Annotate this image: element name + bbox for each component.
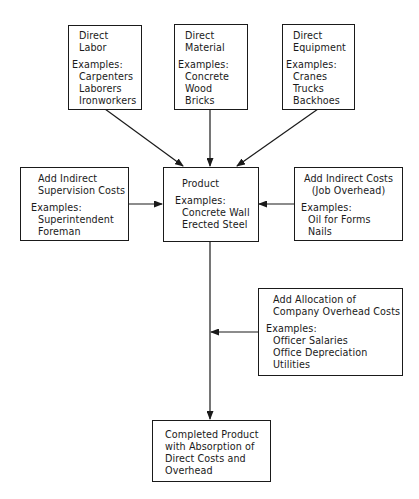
- box-title: Add Indirect Costs: [295, 173, 402, 185]
- direct-equipment-box: Direct Equipment Examples: Cranes Trucks…: [282, 24, 355, 110]
- examples-label: Examples:: [164, 195, 258, 207]
- example-item: Erected Steel: [164, 219, 258, 231]
- box-title: Equipment: [283, 42, 354, 54]
- box-title: Company Overhead Costs: [259, 306, 402, 318]
- box-title: Product: [164, 178, 258, 190]
- box-title: Direct: [283, 30, 354, 42]
- box-title: Add Indirect: [21, 173, 128, 185]
- example-item: Nails: [295, 226, 402, 238]
- box-title: Overhead: [153, 465, 270, 477]
- example-item: Concrete: [175, 71, 247, 83]
- indirect-supervision-box: Add Indirect Supervision Costs Examples:…: [20, 167, 129, 241]
- box-title: Direct: [69, 30, 141, 42]
- example-item: Cranes: [283, 71, 354, 83]
- completed-product-box: Completed Product with Absorption of Dir…: [152, 420, 271, 482]
- example-item: Officer Salaries: [259, 335, 402, 347]
- example-item: Backhoes: [283, 95, 354, 107]
- examples-label: Examples:: [21, 202, 128, 214]
- examples-label: Examples:: [69, 59, 141, 71]
- example-item: Oil for Forms: [295, 214, 402, 226]
- example-item: Wood: [175, 83, 247, 95]
- examples-label: Examples:: [283, 59, 354, 71]
- box-title: Material: [175, 42, 247, 54]
- example-item: Superintendent: [21, 214, 128, 226]
- example-item: Bricks: [175, 95, 247, 107]
- box-title: Add Allocation of: [259, 294, 402, 306]
- example-item: Office Depreciation: [259, 347, 402, 359]
- example-item: Laborers: [69, 83, 141, 95]
- box-title: Direct: [175, 30, 247, 42]
- indirect-job-overhead-box: Add Indirect Costs (Job Overhead) Exampl…: [294, 167, 403, 241]
- example-item: Foreman: [21, 226, 128, 238]
- examples-label: Examples:: [175, 59, 247, 71]
- direct-labor-box: Direct Labor Examples: Carpenters Labore…: [68, 25, 142, 110]
- examples-label: Examples:: [259, 323, 402, 335]
- arrow-equipment-to-product: [237, 109, 318, 166]
- example-item: Utilities: [259, 359, 402, 371]
- example-item: Ironworkers: [69, 95, 141, 107]
- examples-label: Examples:: [295, 202, 402, 214]
- example-item: Concrete Wall: [164, 207, 258, 219]
- direct-material-box: Direct Material Examples: Concrete Wood …: [174, 24, 248, 110]
- box-title: (Job Overhead): [295, 185, 402, 197]
- box-title: Labor: [69, 42, 141, 54]
- example-item: Carpenters: [69, 71, 141, 83]
- product-box: Product Examples: Concrete Wall Erected …: [163, 167, 259, 242]
- box-title: Supervision Costs: [21, 185, 128, 197]
- arrow-labor-to-product: [105, 109, 183, 166]
- company-overhead-box: Add Allocation of Company Overhead Costs…: [258, 288, 403, 376]
- example-item: Trucks: [283, 83, 354, 95]
- box-title: Completed Product: [153, 429, 270, 441]
- box-title: Direct Costs and: [153, 453, 270, 465]
- box-title: with Absorption of: [153, 441, 270, 453]
